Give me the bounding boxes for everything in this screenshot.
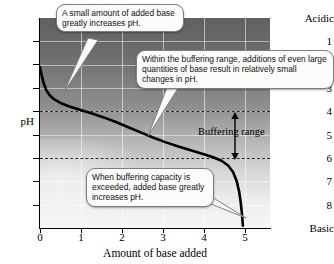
x-tick-label-1: 1 (69, 232, 93, 243)
y-tick-label-8: 8 (296, 200, 332, 211)
y-tick-label-6: 6 (296, 153, 332, 164)
y-tick-label-5: 5 (296, 130, 332, 141)
y-tick-label-1: 1 (296, 36, 332, 47)
callout-buffering-plateau: Within the buffering range, additions of… (136, 50, 334, 89)
x-axis-title: Amount of base added (40, 247, 270, 259)
y-tick-label-7: 7 (296, 176, 332, 187)
callout-capacity-exceeded: When buffering capacity is exceeded, add… (86, 168, 214, 207)
x-tick-label-0: 0 (28, 232, 52, 243)
y-axis-title: pH (2, 116, 34, 127)
buffering-range-double-arrow (228, 112, 242, 160)
y-axis-bottom-label: Basic (296, 223, 334, 234)
y-tick-mark-5 (33, 135, 39, 136)
y-tick-mark-1 (33, 41, 39, 42)
y-tick-mark-6 (33, 158, 39, 159)
y-tick-label-4: 4 (296, 106, 332, 117)
callout-steep-initial-rise: A small amount of added base greatly inc… (56, 4, 184, 32)
callout-1-tail (40, 30, 130, 100)
y-tick-mark-4 (33, 111, 39, 112)
y-tick-mark-3 (33, 88, 39, 89)
y-axis-top-label: Acidic (296, 13, 334, 24)
x-tick-label-2: 2 (110, 232, 134, 243)
x-tick-label-3: 3 (151, 232, 175, 243)
x-tick-label-5: 5 (233, 232, 257, 243)
y-tick-mark-7 (33, 181, 39, 182)
x-tick-label-4: 4 (192, 232, 216, 243)
y-tick-mark-2 (33, 64, 39, 65)
y-tick-mark-8 (33, 205, 39, 206)
x-axis-line (39, 228, 271, 229)
